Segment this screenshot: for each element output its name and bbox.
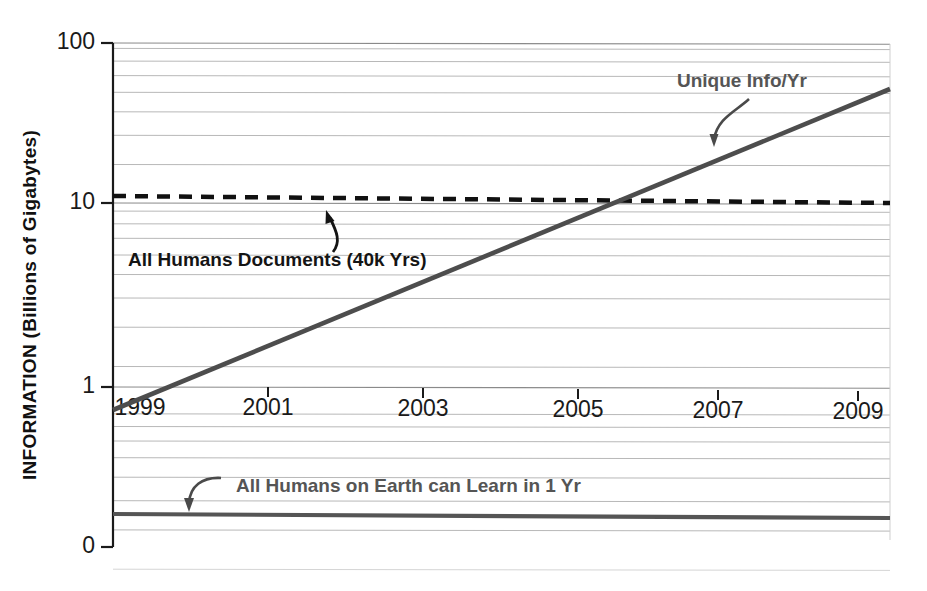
xtick-label-2005: 2005	[552, 396, 603, 422]
ytick-label-0: 0	[82, 532, 95, 558]
plot-background	[113, 43, 890, 530]
ytick-label-1: 1	[82, 372, 95, 398]
xtick-label-2009: 2009	[832, 398, 883, 424]
annotation-label-all-documents: All Humans Documents (40k Yrs)	[128, 249, 426, 270]
xtick-label-2007: 2007	[692, 397, 743, 423]
xtick-label-2001: 2001	[242, 394, 293, 420]
ytick-label-10: 10	[69, 188, 95, 214]
chart-figure: 100 10 1 0 1999 2001 2003 2005 2007 2009…	[0, 0, 927, 591]
annotation-label-unique-info: Unique Info/Yr	[677, 70, 807, 91]
y-axis-title: INFORMATION (Billions of Gigabytes)	[19, 130, 40, 480]
information-growth-log-chart: 100 10 1 0 1999 2001 2003 2005 2007 2009…	[0, 0, 927, 591]
xtick-label-2003: 2003	[397, 395, 448, 421]
axis-spine	[101, 43, 113, 547]
ytick-label-100: 100	[57, 28, 95, 54]
annotation-label-all-humans-learn: All Humans on Earth can Learn in 1 Yr	[236, 475, 582, 496]
